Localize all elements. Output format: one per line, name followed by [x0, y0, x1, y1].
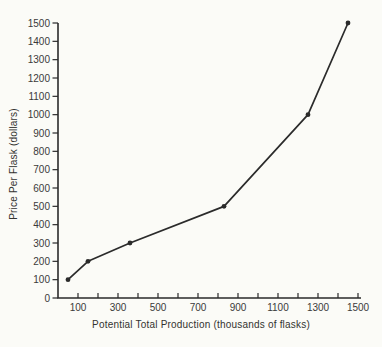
y-tick-label: 100: [33, 274, 50, 285]
x-tick-label: 900: [230, 302, 247, 313]
y-tick-label: 200: [33, 256, 50, 267]
y-tick-label: 1200: [28, 73, 51, 84]
data-point-marker: [86, 259, 91, 264]
y-tick-label: 1000: [28, 109, 51, 120]
y-tick-label: 700: [33, 164, 50, 175]
line-chart-svg: 0100200300400500600700800900100011001200…: [0, 0, 382, 347]
y-axis-title: Price Per Flask (dollars): [8, 108, 19, 220]
data-point-marker: [306, 112, 311, 117]
price-series-line: [68, 23, 348, 280]
x-tick-label: 700: [190, 302, 207, 313]
x-tick-label: 500: [150, 302, 167, 313]
y-tick-label: 1400: [28, 36, 51, 47]
x-tick-label: 1500: [347, 302, 370, 313]
x-tick-label: 1100: [267, 302, 289, 313]
x-tick-label: 300: [110, 302, 127, 313]
y-tick-label: 400: [33, 219, 50, 230]
x-tick-label: 100: [70, 302, 87, 313]
y-tick-label: 1500: [28, 18, 51, 29]
data-point-marker: [346, 21, 351, 26]
data-point-marker: [222, 204, 227, 209]
data-point-marker: [66, 277, 71, 282]
y-tick-label: 300: [33, 238, 50, 249]
y-tick-label: 600: [33, 183, 50, 194]
x-tick-label: 1300: [307, 302, 330, 313]
y-tick-label: 0: [44, 293, 50, 304]
y-tick-label: 800: [33, 146, 50, 157]
x-axis-title: Potential Total Production (thousands of…: [92, 319, 310, 330]
data-point-marker: [128, 241, 133, 246]
y-tick-label: 500: [33, 201, 50, 212]
axes-spine: [58, 23, 361, 298]
y-tick-label: 900: [33, 128, 50, 139]
price-production-chart: 0100200300400500600700800900100011001200…: [0, 0, 382, 347]
y-tick-label: 1100: [28, 91, 50, 102]
y-tick-label: 1300: [28, 54, 51, 65]
